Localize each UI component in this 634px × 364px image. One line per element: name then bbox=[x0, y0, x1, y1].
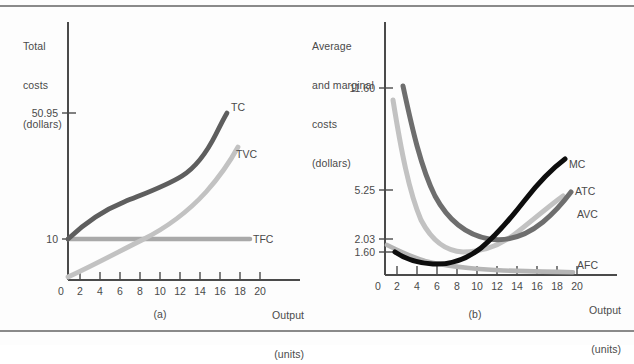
panel-b-ytick-160: 1.60 bbox=[325, 246, 375, 258]
panel-a-xtick-16: 16 bbox=[212, 285, 228, 297]
curve-label-avc: AVC bbox=[577, 208, 598, 220]
panel-b-ytick-1160: 11.60 bbox=[325, 82, 375, 94]
curve-tc bbox=[68, 113, 227, 239]
panel-a-y-axis-title: Total costs (dollars) bbox=[23, 14, 62, 157]
curve-label-atc: ATC bbox=[575, 185, 595, 197]
curve-label-tc: TC bbox=[231, 101, 245, 113]
curve-label-tfc: TFC bbox=[253, 233, 273, 245]
panel-b-xtick-4: 4 bbox=[409, 280, 425, 292]
panel-a-total-costs: Total costs (dollars) 50.95 10 0 2 4 6 8… bbox=[0, 0, 317, 345]
panel-a-xtick-6: 6 bbox=[112, 285, 128, 297]
panel-a-xtick-20: 20 bbox=[252, 285, 268, 297]
panel-b-xtick-14: 14 bbox=[509, 280, 525, 292]
panel-a-x-axis-title: Output (units) bbox=[272, 283, 304, 364]
panel-b-origin-label: 0 bbox=[375, 280, 381, 292]
panel-b-xtick-8: 8 bbox=[449, 280, 465, 292]
panel-b-ytick-203: 2.03 bbox=[325, 233, 375, 245]
panel-a-xtick-10: 10 bbox=[152, 285, 168, 297]
panel-b-xtick-18: 18 bbox=[549, 280, 565, 292]
panel-b-xtick-12: 12 bbox=[489, 280, 505, 292]
panel-b-caption: (b) bbox=[455, 308, 495, 320]
panel-a-xtick-8: 8 bbox=[132, 285, 148, 297]
panel-b-xtick-16: 16 bbox=[529, 280, 545, 292]
panel-a-ytick-10: 10 bbox=[10, 233, 58, 245]
panel-b-ytick-525: 5.25 bbox=[325, 184, 375, 196]
panel-b-y-axis-title: Average and marginal costs (dollars) bbox=[312, 14, 374, 196]
curve-label-tvc: TVC bbox=[236, 148, 257, 160]
panel-b-xtick-10: 10 bbox=[469, 280, 485, 292]
panel-a-xtick-12: 12 bbox=[172, 285, 188, 297]
panel-a-xtick-4: 4 bbox=[92, 285, 108, 297]
panel-b-xtick-2: 2 bbox=[389, 280, 405, 292]
curve-label-mc: MC bbox=[569, 158, 585, 170]
panel-a-xtick-2: 2 bbox=[72, 285, 88, 297]
panel-a-caption: (a) bbox=[140, 308, 180, 320]
panel-b-x-axis-title: Output (units) bbox=[589, 278, 621, 364]
panel-b-xtick-20: 20 bbox=[569, 280, 585, 292]
panel-a-xtick-18: 18 bbox=[232, 285, 248, 297]
panel-a-origin-label: 0 bbox=[58, 285, 64, 297]
curve-tvc bbox=[68, 147, 238, 277]
panel-b-average-marginal-costs: Average and marginal costs (dollars) 11.… bbox=[317, 0, 634, 345]
curve-label-afc: AFC bbox=[577, 259, 598, 271]
panel-a-x-tickmarks bbox=[80, 272, 260, 280]
curve-atc bbox=[403, 86, 571, 240]
panel-b-xtick-6: 6 bbox=[429, 280, 445, 292]
panel-a-ytick-5095: 50.95 bbox=[10, 107, 58, 119]
panel-a-xtick-14: 14 bbox=[192, 285, 208, 297]
